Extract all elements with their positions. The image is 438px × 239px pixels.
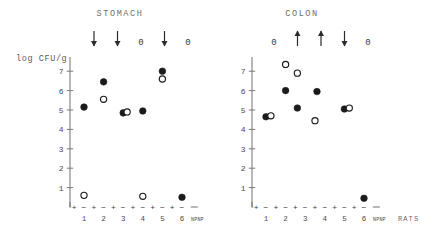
baseline-sign-colon-1: − (264, 203, 269, 212)
x-tick-label-stomach-2: 2 (101, 215, 106, 223)
y-tick-label-colon-7: 7 (241, 67, 246, 76)
x-tick-label-stomach-5: 5 (160, 215, 165, 223)
data-point-colon-closed-circle-5 (361, 195, 368, 202)
x-tick-label-stomach-6: 6 (180, 215, 185, 223)
arrow-head (318, 31, 324, 36)
baseline-sign-colon-3: − (283, 203, 288, 212)
data-point-stomach-closed-circle-1 (100, 79, 107, 86)
annotation-colon-zero-0: 0 (271, 38, 276, 48)
y-tick-label-stomach-7: 7 (59, 67, 64, 76)
figure-container: STOMACH007654321+−+−+−+−+−+−123456NPNPCO… (0, 0, 438, 239)
y-tick-label-stomach-1: 1 (59, 184, 64, 193)
baseline-sign-stomach-8: + (150, 203, 155, 212)
y-tick-label-stomach-5: 5 (59, 106, 64, 115)
x-tick-label-colon-1: 1 (264, 215, 269, 223)
y-tick-label-colon-6: 6 (241, 87, 246, 96)
baseline-sign-stomach-4: + (111, 203, 116, 212)
arrow-head (342, 41, 348, 46)
y-tick-label-colon-3: 3 (241, 145, 246, 154)
data-point-stomach-open-circle-1 (101, 96, 107, 102)
x-tick-label-colon-4: 4 (323, 215, 328, 223)
y-axis-label: log CFU/g (16, 54, 67, 64)
x-axis-caption: RATS (398, 215, 419, 223)
baseline-sign-stomach-0: + (72, 203, 77, 212)
data-point-colon-closed-circle-1 (282, 87, 289, 94)
baseline-sign-stomach-1: − (82, 203, 87, 212)
baseline-sign-stomach-6: + (131, 203, 136, 212)
annotation-stomach-zero-2: 0 (138, 38, 143, 48)
panel-title-stomach: STOMACH (97, 9, 144, 19)
x-tick-label-colon-5: 5 (342, 215, 347, 223)
x-tick-label-stomach-3: 3 (121, 215, 126, 223)
y-tick-label-stomach-6: 6 (59, 87, 64, 96)
baseline-sign-stomach-2: + (91, 203, 96, 212)
annotation-colon-up-arrow-1 (295, 31, 301, 47)
baseline-sign-colon-5: − (303, 203, 308, 212)
scatter-plot-svg: STOMACH007654321+−+−+−+−+−+−123456NPNPCO… (0, 0, 438, 239)
baseline-sign-stomach-5: − (121, 203, 126, 212)
data-point-colon-open-circle-4 (346, 105, 352, 111)
annotation-colon-down-arrow-3 (342, 31, 348, 47)
annotation-stomach-zero-4: 0 (185, 38, 190, 48)
baseline-sign-colon-0: + (254, 203, 259, 212)
baseline-sign-stomach-10: + (170, 203, 175, 212)
data-point-stomach-open-circle-4 (159, 76, 165, 82)
data-point-stomach-closed-circle-3 (140, 108, 147, 115)
group-code-colon: NPNP (373, 217, 386, 223)
y-tick-label-stomach-4: 4 (59, 125, 64, 134)
x-tick-label-stomach-1: 1 (82, 215, 87, 223)
x-tick-label-stomach-4: 4 (141, 215, 146, 223)
arrow-head (295, 31, 301, 36)
data-point-stomach-closed-circle-4 (159, 68, 166, 75)
data-point-stomach-closed-circle-5 (179, 194, 186, 201)
data-point-colon-closed-circle-3 (314, 88, 321, 95)
data-point-colon-open-circle-3 (312, 118, 318, 124)
baseline-sign-stomach-9: − (160, 203, 165, 212)
data-point-colon-open-circle-0 (268, 113, 274, 119)
data-point-colon-open-circle-1 (283, 61, 289, 67)
data-point-stomach-open-circle-2 (124, 109, 130, 115)
y-tick-label-stomach-2: 2 (59, 164, 64, 173)
baseline-sign-colon-7: − (322, 203, 327, 212)
y-tick-label-colon-4: 4 (241, 125, 246, 134)
data-point-colon-open-circle-2 (294, 70, 300, 76)
y-tick-label-colon-5: 5 (241, 106, 246, 115)
arrow-head (91, 41, 97, 46)
plot-render-root: STOMACH007654321+−+−+−+−+−+−123456NPNPCO… (16, 9, 419, 223)
baseline-sign-colon-4: + (293, 203, 298, 212)
annotation-stomach-down-arrow-3 (162, 31, 168, 47)
x-tick-label-colon-3: 3 (303, 215, 308, 223)
data-point-stomach-open-circle-0 (81, 192, 87, 198)
baseline-sign-colon-11: − (362, 203, 367, 212)
y-tick-label-stomach-3: 3 (59, 145, 64, 154)
data-point-stomach-closed-circle-0 (81, 104, 88, 111)
baseline-sign-colon-8: + (332, 203, 337, 212)
annotation-stomach-down-arrow-1 (115, 31, 121, 47)
annotation-colon-up-arrow-2 (318, 31, 324, 47)
baseline-sign-colon-9: − (342, 203, 347, 212)
panel-title-colon: COLON (285, 9, 319, 19)
baseline-sign-stomach-7: − (140, 203, 145, 212)
y-tick-label-colon-2: 2 (241, 164, 246, 173)
baseline-sign-colon-6: + (313, 203, 318, 212)
arrow-head (115, 41, 121, 46)
baseline-sign-stomach-3: − (101, 203, 106, 212)
data-point-colon-closed-circle-2 (294, 105, 301, 112)
arrow-head (162, 41, 168, 46)
annotation-colon-zero-4: 0 (365, 38, 370, 48)
y-tick-label-colon-1: 1 (241, 184, 246, 193)
group-code-stomach: NPNP (191, 217, 204, 223)
baseline-sign-colon-2: + (273, 203, 278, 212)
x-tick-label-colon-2: 2 (283, 215, 288, 223)
x-tick-label-colon-6: 6 (362, 215, 367, 223)
data-point-stomach-open-circle-3 (140, 193, 146, 199)
baseline-sign-colon-10: + (352, 203, 357, 212)
baseline-sign-stomach-11: − (180, 203, 185, 212)
annotation-stomach-down-arrow-0 (91, 31, 97, 47)
